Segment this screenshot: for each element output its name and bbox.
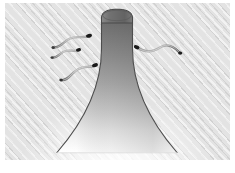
illustration-panel bbox=[5, 3, 230, 160]
cell-tail-tip bbox=[59, 79, 63, 82]
margin-top bbox=[0, 0, 235, 3]
cell-tail bbox=[61, 66, 94, 81]
sperm-cell-middle-left bbox=[51, 48, 82, 59]
figure-root bbox=[0, 0, 235, 173]
margin-left bbox=[0, 0, 5, 173]
cell-tail bbox=[138, 45, 180, 52]
sperm-cell-upper-left bbox=[52, 33, 93, 49]
cell-tail-tip bbox=[52, 46, 55, 49]
sperm-cell-lower-left bbox=[59, 62, 98, 81]
cell-tail-tip bbox=[51, 56, 54, 58]
margin-right bbox=[230, 0, 235, 173]
margin-bottom bbox=[0, 160, 235, 173]
scene-illustration bbox=[5, 3, 230, 160]
cell-tail-tip bbox=[178, 52, 182, 55]
plume-shading bbox=[57, 10, 177, 153]
sperm-cell-right bbox=[133, 44, 182, 54]
chemoattractant-plume bbox=[57, 9, 177, 153]
